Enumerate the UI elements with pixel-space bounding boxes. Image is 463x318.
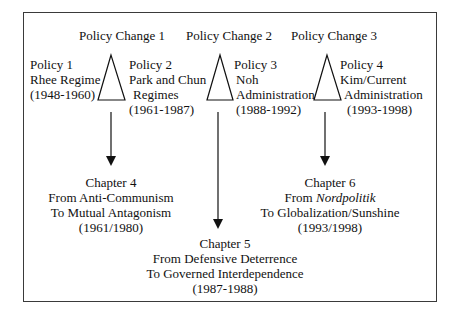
policy-3-title: Policy 3	[234, 57, 315, 72]
policy-change-1-label: Policy Change 1	[79, 28, 165, 43]
policy-1-years: (1948-1960)	[30, 87, 100, 102]
policy-change-2-triangle-icon	[207, 55, 233, 100]
chapter-6-from: From Nordpolitik	[257, 190, 403, 205]
policy-4-block: Policy 4 Kim/Current Administration (199…	[340, 57, 423, 117]
chapter-5-from: From Defensive Deterrence	[145, 251, 305, 266]
chapter-4-years: (1961/1980)	[46, 220, 176, 235]
chapter-4-to: To Mutual Antagonism	[46, 205, 176, 220]
chapter-6-title: Chapter 6	[257, 175, 403, 190]
policy-2-regime: Park and Chun	[129, 72, 206, 87]
policy-2-regime-cont: Regimes	[129, 87, 206, 102]
chapter-5-years: (1987-1988)	[145, 281, 305, 296]
policy-4-years: (1993-1998)	[340, 102, 423, 117]
policy-3-block: Policy 3 Noh Administration (1988-1992)	[234, 57, 315, 117]
policy-2-block: Policy 2 Park and Chun Regimes (1961-198…	[129, 57, 206, 117]
policy-3-administration: Administration	[234, 87, 315, 102]
policy-change-3-label: Policy Change 3	[291, 28, 377, 43]
policy-2-years: (1961-1987)	[129, 102, 206, 117]
policy-change-1-triangle-icon	[98, 55, 125, 100]
policy-4-administration: Administration	[340, 87, 423, 102]
arrow-to-chapter-6-icon	[320, 112, 330, 166]
chapter-6-from-prefix: From	[285, 190, 316, 205]
policy-1-regime: Rhee Regime	[30, 72, 100, 87]
chapter-4-title: Chapter 4	[46, 175, 176, 190]
policy-3-years: (1988-1992)	[234, 102, 315, 117]
policy-3-name: Noh	[234, 72, 315, 87]
policy-1-block: Policy 1 Rhee Regime (1948-1960)	[30, 57, 100, 102]
policy-1-title: Policy 1	[30, 57, 100, 72]
policy-4-title: Policy 4	[340, 57, 423, 72]
chapter-4-block: Chapter 4 From Anti-Communism To Mutual …	[46, 175, 176, 235]
arrow-to-chapter-4-icon	[106, 112, 116, 166]
chapter-5-block: Chapter 5 From Defensive Deterrence To G…	[145, 236, 305, 296]
arrow-to-chapter-5-icon	[213, 112, 223, 229]
chapter-5-to: To Governed Interdependence	[145, 266, 305, 281]
chapter-6-block: Chapter 6 From Nordpolitik To Globalizat…	[257, 175, 403, 235]
chapter-6-years: (1993/1998)	[257, 220, 403, 235]
chapter-4-from: From Anti-Communism	[46, 190, 176, 205]
policy-change-3-triangle-icon	[314, 55, 341, 100]
policy-4-name: Kim/Current	[340, 72, 423, 87]
policy-2-title: Policy 2	[129, 57, 206, 72]
chapter-6-to: To Globalization/Sunshine	[257, 205, 403, 220]
policy-change-2-label: Policy Change 2	[186, 28, 272, 43]
chapter-6-from-term: Nordpolitik	[316, 190, 375, 205]
chapter-5-title: Chapter 5	[145, 236, 305, 251]
